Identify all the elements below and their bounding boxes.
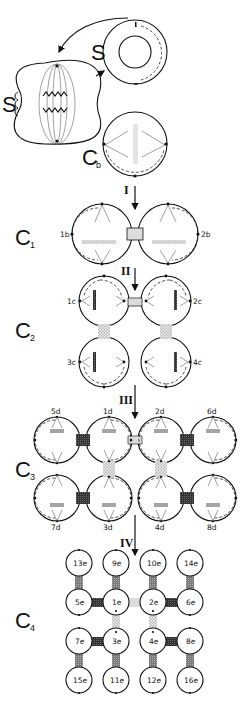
s-interphase-cell (103, 20, 167, 85)
s-metaphase-cell (14, 60, 101, 144)
cell-label-8d: 8d (207, 523, 217, 532)
cell-label-6d: 6d (207, 407, 217, 416)
cell-label-11e: 11e (110, 676, 125, 685)
stage-label-c3: C (15, 457, 31, 482)
c1-cyst (70, 203, 199, 266)
cell-label-5e: 5e (75, 598, 85, 607)
c4-cyst (66, 549, 203, 694)
cell-label-7d: 7d (51, 523, 61, 532)
cell-label-10e: 10e (147, 559, 162, 568)
cell-label-1d: 1d (103, 407, 113, 416)
cell-label-2e: 2e (149, 598, 159, 607)
cell-label-3d: 3d (103, 523, 113, 532)
cell-label-5d: 5d (51, 407, 61, 416)
cell-label-6e: 6e (186, 598, 196, 607)
stage-label-c4: C (15, 608, 31, 633)
cell-label-2b: 2b (201, 230, 211, 239)
cell-label-13e: 13e (73, 559, 88, 568)
cell-label-8e: 8e (186, 637, 196, 646)
cell-label-1e: 1e (112, 598, 122, 607)
cell-label-15e: 15e (73, 676, 88, 685)
svg-text:b: b (96, 160, 101, 170)
oogenesis-cyst-division-diagram: S S C b I (0, 0, 249, 707)
cell-label-4e: 4e (149, 637, 159, 646)
cell-label-12e: 12e (147, 676, 162, 685)
stage-label-c1: C (15, 225, 31, 250)
cb-cell (102, 112, 167, 178)
svg-text:3: 3 (30, 472, 35, 482)
cell-label-9e: 9e (112, 559, 122, 568)
division-label-iii: III (119, 393, 133, 407)
cell-label-1b: 1b (60, 230, 70, 239)
division-label-i: I (124, 183, 129, 197)
cell-label-2d: 2d (155, 407, 165, 416)
cell-label-4c: 4c (193, 358, 202, 367)
cell-label-7e: 7e (75, 637, 85, 646)
cell-label-4d: 4d (155, 523, 165, 532)
c2-cyst (79, 275, 192, 389)
svg-text:2: 2 (30, 333, 35, 343)
cell-label-2c: 2c (193, 297, 202, 306)
cell-label-3c: 3c (67, 358, 76, 367)
stage-label-c2: C (15, 318, 31, 343)
stage-label-s-metaphase: S (2, 92, 17, 117)
cell-label-3e: 3e (112, 637, 122, 646)
svg-text:1: 1 (30, 240, 35, 250)
svg-text:4: 4 (30, 623, 35, 633)
cell-label-1c: 1c (67, 297, 76, 306)
c3-cyst (34, 416, 238, 523)
division-label-ii: II (121, 264, 131, 278)
cell-label-16e: 16e (184, 676, 199, 685)
stage-label-s-interphase: S (91, 40, 106, 65)
cell-label-14e: 14e (184, 559, 199, 568)
division-label-iv: IV (120, 536, 134, 550)
